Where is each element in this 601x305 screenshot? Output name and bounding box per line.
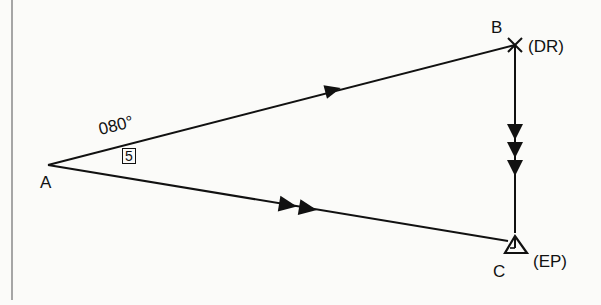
boxed-number: 5 [122,148,136,164]
arrow-triple-icon [507,124,523,176]
diagram-canvas [0,0,601,305]
edge-ac [48,165,508,241]
ep-triangle-icon [505,236,527,253]
point-b-label: B [491,19,502,36]
point-a-label: A [40,174,51,191]
edge-ab [48,45,515,165]
point-c-note: (EP) [533,253,567,270]
point-c-label: C [493,263,505,280]
point-b-note: (DR) [528,38,564,55]
